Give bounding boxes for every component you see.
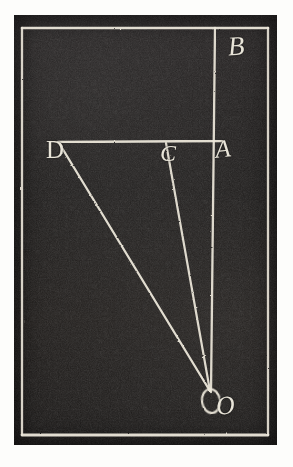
- inner-border-rectangle: [22, 28, 268, 435]
- point-label-O: O: [214, 392, 236, 420]
- segment-DA: [58, 141, 222, 142]
- figure-root: B D C A O: [0, 0, 293, 467]
- point-label-B: B: [227, 32, 245, 60]
- point-label-A: A: [214, 135, 232, 161]
- segment-BO: [211, 28, 215, 392]
- point-label-D: D: [46, 137, 64, 162]
- point-label-C: C: [160, 141, 176, 165]
- geometry-drawing: [14, 15, 277, 445]
- engraving-plate: B D C A O: [14, 15, 277, 445]
